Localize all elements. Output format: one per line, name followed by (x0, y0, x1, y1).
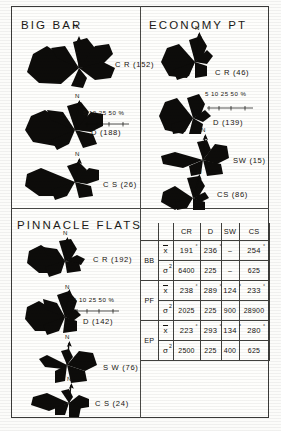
compass-north-label-pf-cs: N (67, 375, 72, 382)
compass-north-label-ep-sw: N (201, 126, 206, 133)
stat-symbol-mean-bb: x (158, 241, 173, 261)
rose-diagram-ep-cr: N C R (46) (149, 28, 267, 86)
header-blank-stat (158, 223, 173, 241)
stat-symbol-variance-ep: σ (158, 341, 173, 361)
panel-statistics-table: CR D SW CS BB x 191° 236° – 254° σ (141, 209, 269, 418)
compass-north-label-bb-cr: N (73, 22, 78, 29)
rose-label-bb-d: D (188) (91, 128, 121, 137)
table-row: σ 6400 225 – 625 (141, 261, 269, 281)
cell-bb-mean-d: 236° (200, 241, 221, 261)
rose-scale-ep-d: 5 10 25 50 % (205, 90, 246, 97)
rose-petals-ep-cr (149, 28, 267, 86)
rose-label-ep-cs: CS (86) (217, 190, 248, 199)
table-row: EP x 223° 293° 134° 280° (141, 321, 269, 341)
cell-bb-var-sw: – (221, 261, 239, 281)
cell-ep-var-cs: 625 (239, 341, 269, 361)
header-cs: CS (239, 223, 269, 241)
cell-bb-mean-cs: 254° (239, 241, 269, 261)
cell-ep-mean-cr: 223° (173, 321, 200, 341)
table-row: σ 2025 225 900 28900 (141, 301, 269, 321)
cell-pf-var-sw: 900 (221, 301, 239, 321)
stat-symbol-variance-pf: σ (158, 301, 173, 321)
header-d: D (200, 223, 221, 241)
cell-pf-mean-cr: 238° (173, 281, 200, 301)
compass-north-label-ep-cs: N (197, 168, 202, 175)
rose-diagram-bb-cs: N C S (26) (17, 154, 137, 206)
rose-petals-bb-d (17, 96, 137, 156)
rose-label-pf-d: D (142) (83, 317, 113, 326)
compass-north-label-pf-cr: N (63, 229, 68, 236)
stat-symbol-mean-pf: x (158, 281, 173, 301)
panel-big-bar: BIG BAR N C R (152) (11, 6, 141, 208)
cell-ep-mean-d: 293° (200, 321, 221, 341)
rose-diagram-pf-d: N 5 10 25 50 % D (142) (17, 287, 137, 343)
panel-title-pinnacle-flats: PINNACLE FLATS (17, 219, 142, 231)
rose-diagram-pf-cr: N C R (192) (17, 235, 137, 285)
panel-pinnacle-flats: PINNACLE FLATS N C R (192) (11, 209, 141, 418)
rose-label-ep-cr: C R (46) (215, 68, 249, 77)
cell-ep-var-sw: 400 (221, 341, 239, 361)
cell-bb-var-cs: 625 (239, 261, 269, 281)
table-row: BB x 191° 236° – 254° (141, 241, 269, 261)
header-blank-group (141, 223, 158, 241)
rose-scale-bb-d: 5 10 25 50 % (83, 109, 124, 116)
table-row: PF x 238° 289° 124° 233° (141, 281, 269, 301)
panel-economy-pt: ECONOMY PT N C R (46) (141, 6, 269, 208)
cell-pf-var-cs: 28900 (239, 301, 269, 321)
compass-north-label-ep-cr: N (195, 24, 200, 31)
cell-pf-mean-cs: 233° (239, 281, 269, 301)
stat-symbol-variance-bb: σ (158, 261, 173, 281)
cell-bb-mean-sw: – (221, 241, 239, 261)
table-row: σ 2500 225 400 625 (141, 341, 269, 361)
stat-symbol-mean-ep: x (158, 321, 173, 341)
table-header-row: CR D SW CS (141, 223, 269, 241)
rose-petals-bb-cr (17, 28, 137, 90)
rose-label-bb-cs: C S (26) (103, 180, 137, 189)
compass-north-label-pf-sw: N (65, 333, 70, 340)
row-group-pf: PF (141, 281, 158, 321)
row-group-bb: BB (141, 241, 158, 281)
rose-label-pf-cs: C S (24) (95, 399, 129, 408)
cell-ep-var-cr: 2500 (173, 341, 200, 361)
cell-ep-var-d: 225 (200, 341, 221, 361)
rose-scale-pf-d: 5 10 25 50 % (73, 296, 114, 303)
rose-diagram-bb-cr: N C R (152) (17, 28, 137, 90)
rose-diagram-bb-d: N 5 10 25 50 % D (188) (17, 96, 137, 156)
cell-pf-mean-d: 289° (200, 281, 221, 301)
rose-label-ep-d: D (139) (213, 118, 243, 127)
header-cr: CR (173, 223, 200, 241)
cell-bb-var-cr: 6400 (173, 261, 200, 281)
cell-pf-var-d: 225 (200, 301, 221, 321)
rose-diagram-pf-cs: N C S (24) (17, 381, 137, 421)
rose-label-pf-cr: C R (192) (93, 255, 132, 264)
rose-label-ep-sw: SW (15) (233, 156, 266, 165)
north-arrow-head (69, 383, 74, 389)
cell-bb-var-d: 225 (200, 261, 221, 281)
compass-north-label-bb-cs: N (75, 150, 80, 157)
cell-pf-var-cr: 2025 (173, 301, 200, 321)
cell-ep-mean-cs: 280° (239, 321, 269, 341)
cell-pf-mean-sw: 124° (221, 281, 239, 301)
row-group-ep: EP (141, 321, 158, 361)
cell-ep-mean-sw: 134° (221, 321, 239, 341)
figure-plate: BIG BAR N C R (152) (0, 0, 281, 431)
cell-bb-mean-cr: 191° (173, 241, 200, 261)
statistics-table: CR D SW CS BB x 191° 236° – 254° σ (141, 223, 270, 361)
compass-north-label-bb-d: N (75, 92, 80, 99)
rose-label-pf-sw: S W (76) (103, 363, 139, 372)
header-sw: SW (221, 223, 239, 241)
compass-north-label-pf-d: N (65, 283, 70, 290)
